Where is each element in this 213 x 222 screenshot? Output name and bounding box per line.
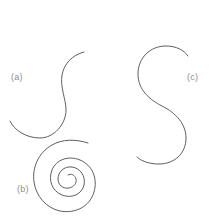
curves-canvas — [0, 0, 213, 222]
figure-panel: (a) (b) (c) — [0, 0, 213, 222]
figure-label-a: (a) — [11, 73, 23, 82]
curve-c-path — [137, 46, 188, 164]
figure-label-b: (b) — [17, 185, 29, 194]
curve-a-path — [10, 52, 84, 138]
curve-b-spiral-path — [34, 140, 96, 211]
figure-label-c: (c) — [187, 73, 198, 82]
